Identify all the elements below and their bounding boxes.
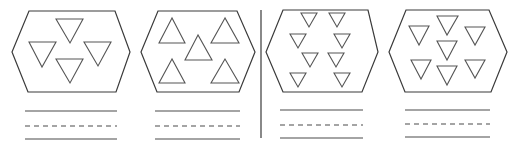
hexagon-frame [389, 10, 507, 92]
triangle-down-icon [409, 26, 429, 45]
triangle-down-icon [437, 41, 457, 60]
triangle-down-icon [56, 59, 83, 83]
hexagon-frame [141, 11, 255, 92]
triangle-down-icon [437, 66, 457, 85]
triangle-down-icon [334, 73, 350, 87]
triangle-up-icon [211, 59, 239, 83]
triangle-down-icon [465, 60, 485, 78]
worksheet-panel-4 [389, 10, 507, 137]
triangle-down-icon [302, 53, 318, 67]
triangle-down-icon [465, 27, 485, 45]
triangle-down-icon [301, 13, 317, 27]
triangle-down-icon [328, 53, 344, 67]
triangle-down-icon [329, 13, 345, 27]
triangle-up-icon [211, 18, 239, 43]
triangle-down-icon [290, 73, 306, 87]
triangle-up-icon [159, 18, 185, 43]
triangle-down-icon [290, 34, 306, 48]
hexagon-frame [266, 10, 378, 92]
worksheet-panel-1 [12, 11, 130, 139]
triangle-down-icon [334, 34, 350, 48]
triangle-up-icon [159, 59, 185, 83]
worksheet-panel-3 [266, 10, 378, 138]
triangle-up-icon [185, 35, 212, 60]
triangle-down-icon [29, 42, 56, 67]
triangle-counting-worksheet [0, 0, 519, 147]
hexagon-frame [12, 11, 130, 92]
triangle-down-icon [56, 19, 83, 43]
triangle-down-icon [437, 16, 458, 35]
triangle-down-icon [84, 42, 111, 66]
worksheet-panel-2 [141, 11, 255, 139]
worksheet-canvas [0, 0, 519, 147]
triangle-down-icon [411, 60, 431, 79]
